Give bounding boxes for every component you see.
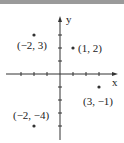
point-3-neg1: [97, 85, 100, 88]
point-label-neg2-3: (−2, 3): [17, 40, 47, 51]
point-label-neg2-neg4: (−2, −4): [13, 110, 49, 121]
point-label-1-2: (1, 2): [78, 43, 102, 54]
point-neg2-neg4: [32, 124, 35, 127]
x-axis-label: x: [112, 77, 118, 88]
coordinate-plane: [0, 0, 124, 143]
y-axis-label: y: [66, 14, 72, 25]
point-neg2-3: [32, 33, 35, 36]
point-label-3-neg1: (3, −1): [83, 96, 113, 107]
y-axis-arrow-icon: [58, 16, 62, 22]
point-1-2: [71, 46, 74, 49]
